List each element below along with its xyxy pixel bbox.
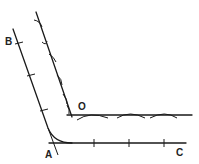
geometry-diagram: B O A C: [0, 0, 199, 164]
tick-ba-2: [27, 74, 35, 76]
arc-1: [77, 115, 108, 120]
label-a: A: [45, 149, 52, 160]
label-c: C: [176, 147, 183, 158]
tick-ba-1: [15, 42, 23, 44]
label-o: O: [78, 101, 86, 112]
label-b: B: [5, 36, 12, 47]
line-ba: [13, 29, 72, 143]
